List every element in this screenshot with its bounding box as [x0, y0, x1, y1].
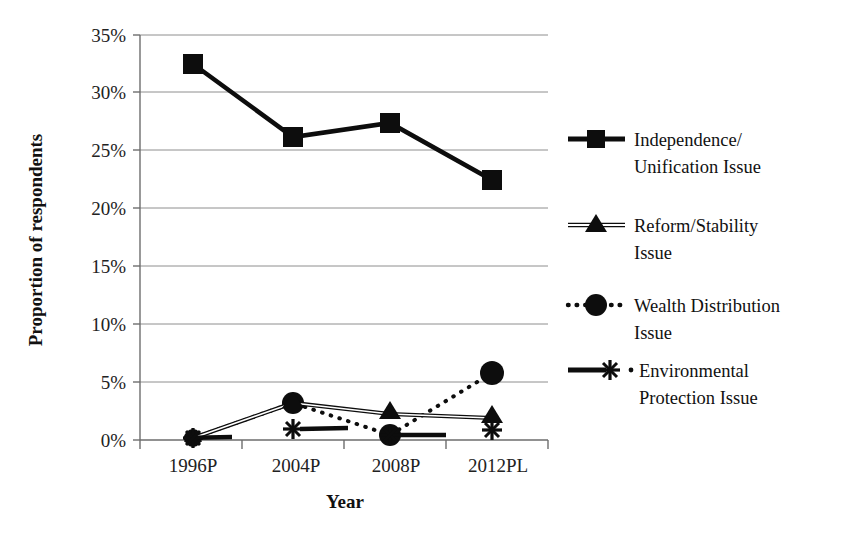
- y-tick-label-20: 20%: [91, 198, 126, 219]
- legend-label-independence-line1: Independence/: [634, 130, 743, 150]
- chart-legend: Independence/ Unification Issue Reform/S…: [568, 130, 780, 408]
- y-tick-labels: 35% 30% 25% 20% 15% 10% 5% 0%: [91, 25, 126, 451]
- axes: [133, 35, 548, 449]
- environment-marker-2008p: [380, 425, 400, 445]
- legend-label-reform-line2: Issue: [634, 243, 672, 263]
- legend-entry-independence[interactable]: Independence/ Unification Issue: [568, 130, 761, 177]
- x-tick-labels: 1996P 2004P 2008P 2012PL: [169, 455, 528, 476]
- series-reform-stability: [184, 392, 503, 442]
- reform-marker-2008p: [379, 401, 401, 419]
- y-tick-label-0: 0%: [101, 430, 127, 451]
- y-tick-label-15: 15%: [91, 256, 126, 277]
- series-independence-unification: [183, 54, 502, 190]
- environment-marker-2004p: [283, 419, 303, 439]
- y-tick-label-10: 10%: [91, 314, 126, 335]
- x-axis-title: Year: [326, 491, 365, 512]
- gridlines: [140, 35, 548, 382]
- legend-label-environmental-line1: Environmental: [639, 361, 749, 381]
- y-tick-label-5: 5%: [101, 372, 127, 393]
- legend-entry-environmental[interactable]: Environmental Protection Issue: [568, 360, 758, 408]
- independence-marker-2008p: [380, 113, 400, 133]
- independence-marker-1996p: [183, 54, 203, 74]
- y-tick-label-30: 30%: [91, 82, 126, 103]
- series-wealth-distribution: [184, 361, 504, 447]
- environment-marker-1996p: [183, 428, 203, 448]
- x-tick-label-1996p: 1996P: [169, 455, 218, 476]
- legend-entry-reform[interactable]: Reform/Stability Issue: [568, 214, 759, 263]
- environment-segment-2004p: [300, 428, 348, 429]
- independence-marker-2012pl: [482, 170, 502, 190]
- legend-label-wealth-line1: Wealth Distribution: [634, 296, 780, 316]
- x-tick-label-2012pl: 2012PL: [468, 455, 528, 476]
- wealth-marker-2012pl: [480, 361, 504, 385]
- legend-environmental-dot: [629, 368, 634, 373]
- legend-asterisk-marker: [600, 360, 620, 380]
- line-chart: 35% 30% 25% 20% 15% 10% 5% 0% 1996P 2004…: [0, 0, 859, 535]
- independence-line: [193, 64, 492, 180]
- legend-circle-marker: [585, 294, 607, 316]
- legend-label-wealth-line2: Issue: [634, 323, 672, 343]
- legend-square-marker: [587, 130, 605, 148]
- independence-marker-2004p: [283, 127, 303, 147]
- chart-figure: 35% 30% 25% 20% 15% 10% 5% 0% 1996P 2004…: [0, 0, 859, 535]
- legend-label-independence-line2: Unification Issue: [634, 157, 761, 177]
- legend-entry-wealth[interactable]: Wealth Distribution Issue: [568, 294, 780, 343]
- legend-label-reform-line1: Reform/Stability: [634, 216, 759, 236]
- y-tick-label-35: 35%: [91, 25, 126, 46]
- legend-label-environmental-line2: Protection Issue: [639, 388, 758, 408]
- y-axis-title: Proportion of respondents: [25, 134, 46, 347]
- environment-marker-2012pl: [482, 420, 502, 440]
- x-tick-label-2004p: 2004P: [272, 455, 321, 476]
- x-tick-label-2008p: 2008P: [372, 455, 421, 476]
- y-tick-label-25: 25%: [91, 140, 126, 161]
